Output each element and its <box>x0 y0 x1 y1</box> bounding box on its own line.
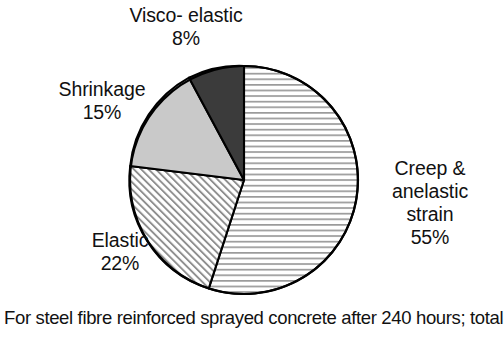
slice-label-creep-name: Creep & anelastic strain <box>360 157 500 226</box>
slice-label-shrinkage-name: Shrinkage <box>22 78 182 101</box>
slice-label-shrinkage-percent: 15% <box>22 101 182 124</box>
slice-label-visco: Visco- elastic 8% <box>86 4 286 50</box>
slice-label-shrinkage: Shrinkage 15% <box>22 78 182 124</box>
slice-label-creep: Creep & anelastic strain 55% <box>360 157 500 249</box>
slice-label-elastic-percent: 22% <box>42 252 198 275</box>
slice-label-creep-name-line3: strain <box>360 203 500 226</box>
slice-label-visco-percent: 8% <box>86 27 286 50</box>
pie-chart-figure: Visco- elastic 8% Shrinkage 15% Elastic … <box>0 0 504 337</box>
slice-label-elastic: Elastic 22% <box>42 229 198 275</box>
slice-label-elastic-name: Elastic <box>42 229 198 252</box>
slice-label-visco-name: Visco- elastic <box>86 4 286 27</box>
slice-label-creep-name-line2: anelastic <box>360 180 500 203</box>
slice-label-creep-name-line1: Creep & <box>360 157 500 180</box>
slice-label-creep-percent: 55% <box>360 226 500 249</box>
chart-caption: For steel fibre reinforced sprayed concr… <box>4 306 504 330</box>
